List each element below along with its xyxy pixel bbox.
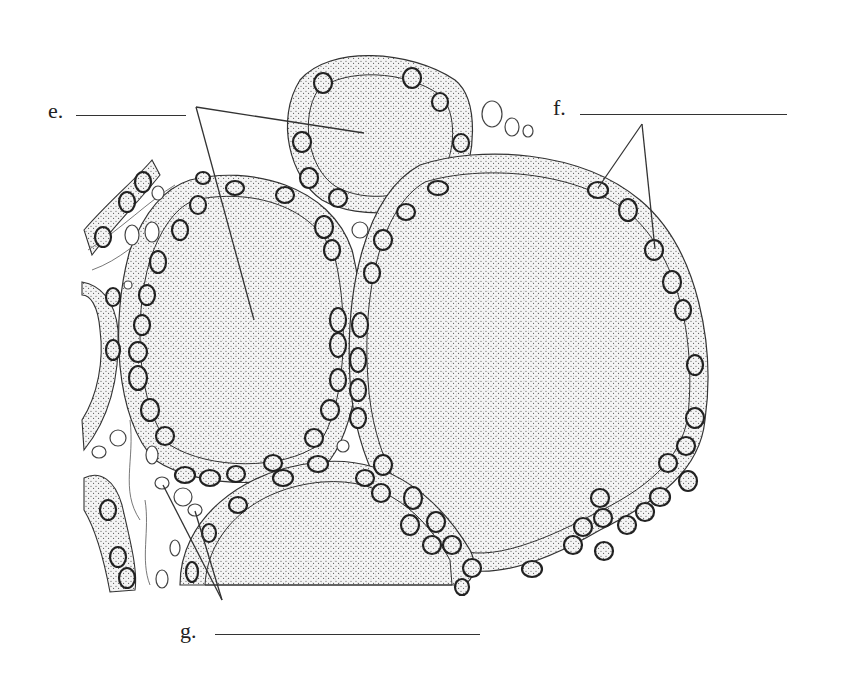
histology-illustration (0, 0, 841, 682)
label-g: g. (180, 620, 197, 642)
answer-blank-e[interactable] (76, 115, 186, 116)
thyroid-follicle-diagram: e. f. g. (0, 0, 841, 682)
label-f: f. (553, 97, 566, 119)
leader-line-f (598, 124, 642, 188)
label-e: e. (48, 100, 63, 122)
answer-blank-f[interactable] (580, 114, 787, 115)
answer-blank-g[interactable] (215, 634, 480, 635)
